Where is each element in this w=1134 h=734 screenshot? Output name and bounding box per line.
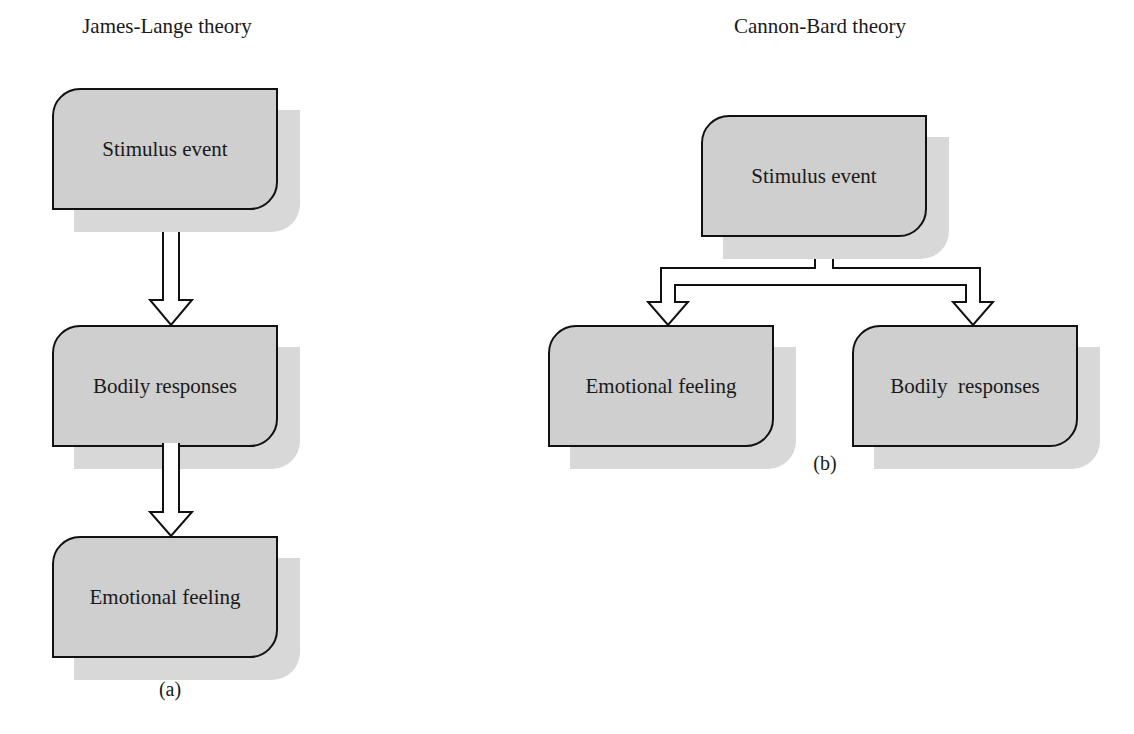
- arrow-b-split-icon: [648, 259, 993, 325]
- arrows-layer: [0, 0, 1134, 734]
- arrow-a-bodily-to-emotional-icon: [150, 443, 192, 536]
- arrow-a-stimulus-to-bodily-icon: [150, 232, 192, 325]
